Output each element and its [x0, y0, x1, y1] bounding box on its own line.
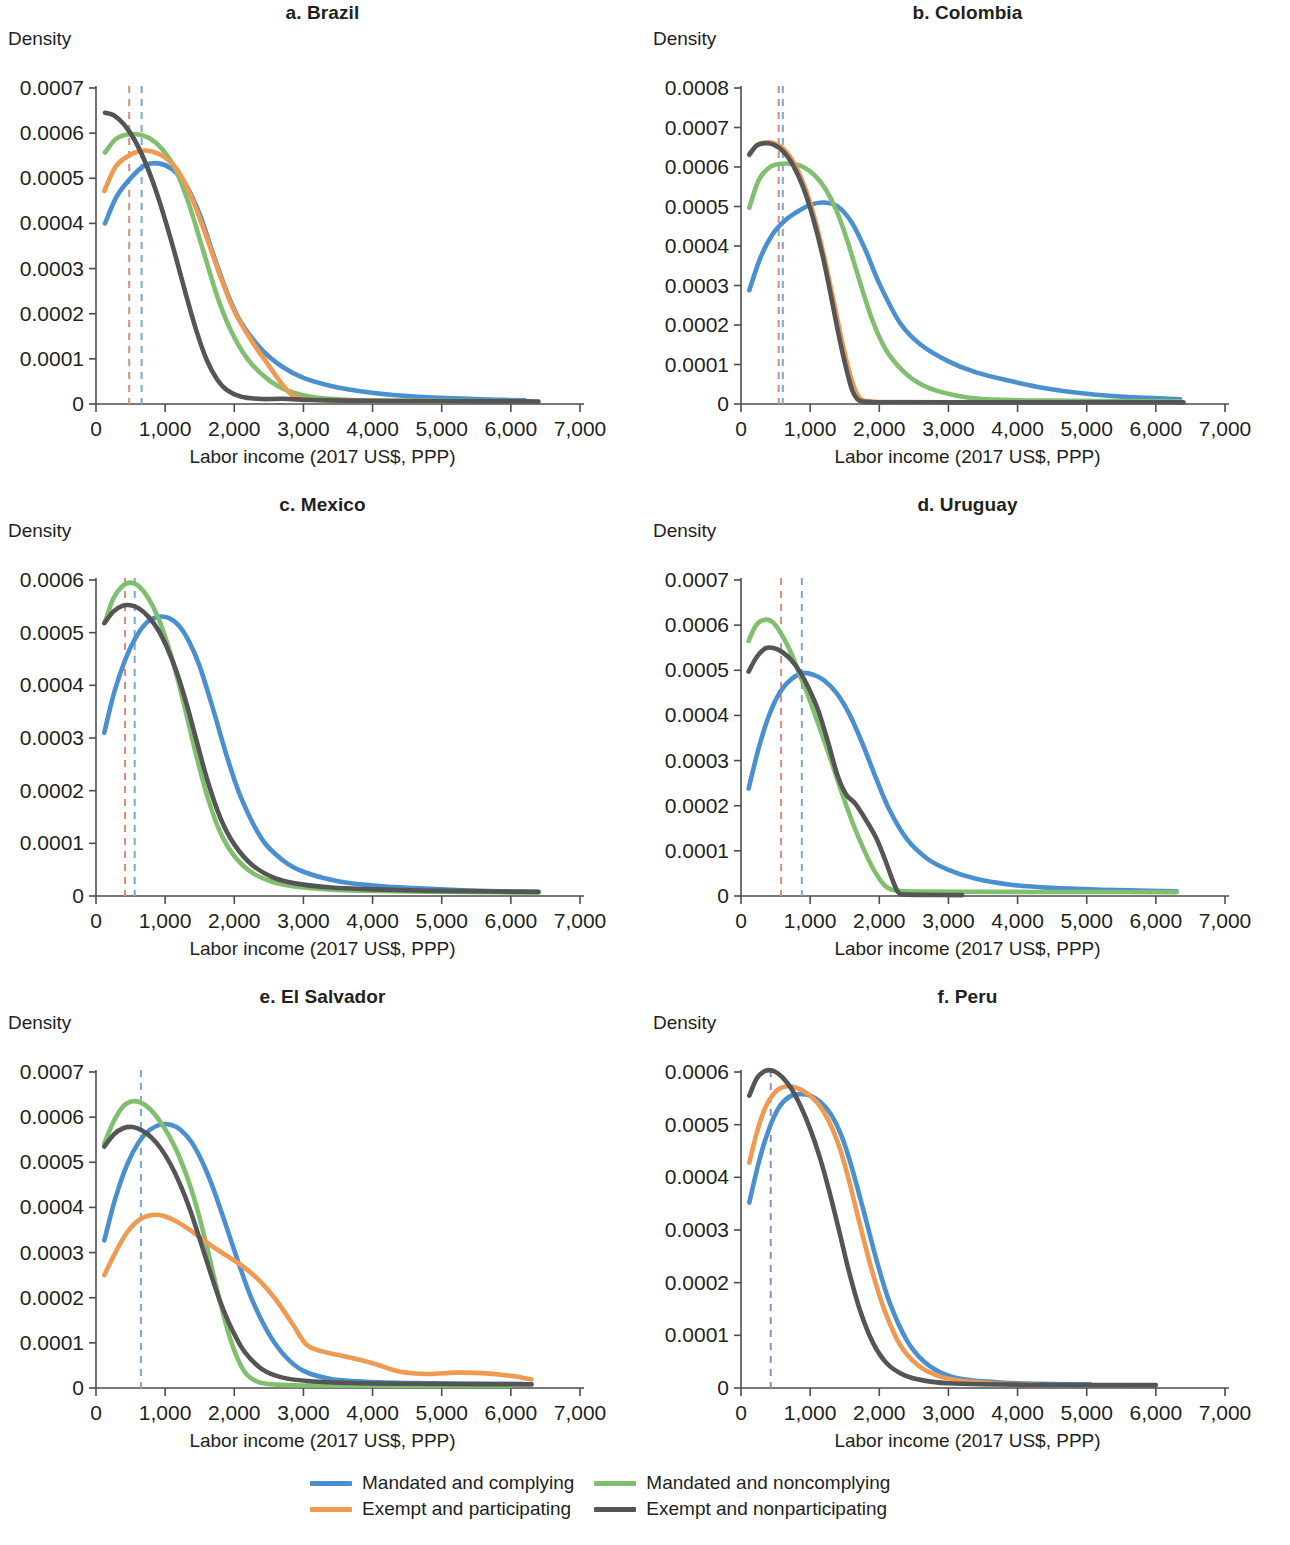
legend-item-exempt_nonparticipating[interactable]: Exempt and nonparticipating: [594, 1498, 890, 1520]
y-tick-label: 0.0005: [20, 166, 84, 189]
y-tick-label: 0.0005: [665, 195, 729, 218]
y-tick-label: 0.0003: [20, 1241, 84, 1264]
x-tick-label: 2,000: [208, 1401, 261, 1424]
y-tick-label: 0: [72, 884, 84, 907]
density-curve: [104, 1127, 531, 1385]
y-tick-label: 0.0002: [665, 1271, 729, 1294]
density-curve: [749, 1070, 1156, 1385]
y-tick-label: 0.0006: [20, 121, 84, 144]
x-tick-label: 1,000: [139, 417, 192, 440]
x-tick-label: 4,000: [991, 1401, 1044, 1424]
y-tick-label: 0.0004: [665, 234, 730, 257]
density-curve: [749, 1094, 1090, 1384]
y-tick-label: 0.0001: [20, 831, 84, 854]
chart-legend: Mandated and complyingMandated and nonco…: [0, 1472, 1290, 1545]
x-tick-label: 6,000: [1130, 417, 1183, 440]
x-tick-label: 7,000: [1199, 1401, 1252, 1424]
y-tick-label: 0.0002: [20, 302, 84, 325]
density-curve: [749, 620, 1177, 893]
legend-label: Exempt and nonparticipating: [646, 1498, 887, 1520]
plot-area: 00.00010.00020.00030.00040.00050.00060.0…: [645, 492, 1290, 982]
y-tick-label: 0.0007: [665, 568, 729, 591]
x-tick-label: 3,000: [277, 1401, 330, 1424]
x-tick-label: 3,000: [277, 417, 330, 440]
y-tick-label: 0.0004: [665, 1165, 730, 1188]
x-tick-label: 1,000: [784, 909, 837, 932]
density-curve: [105, 163, 525, 400]
x-tick-label: 2,000: [853, 417, 906, 440]
panel-brazil: a. BrazilDensityLabor income (2017 US$, …: [0, 0, 645, 490]
panel-el-salvador: e. El SalvadorDensityLabor income (2017 …: [0, 984, 645, 1474]
y-tick-label: 0.0004: [665, 703, 730, 726]
legend-swatch-icon: [310, 1507, 352, 1512]
density-curve: [749, 203, 1180, 400]
y-tick-label: 0.0002: [665, 313, 729, 336]
legend-label: Mandated and complying: [362, 1472, 574, 1494]
x-tick-label: 4,000: [346, 417, 399, 440]
y-tick-label: 0.0001: [20, 347, 84, 370]
y-tick-label: 0.0005: [665, 658, 729, 681]
y-tick-label: 0.0005: [665, 1113, 729, 1136]
y-tick-label: 0.0008: [665, 76, 729, 99]
density-curve: [104, 151, 511, 402]
x-tick-label: 4,000: [346, 1401, 399, 1424]
y-tick-label: 0.0001: [665, 1323, 729, 1346]
x-tick-label: 1,000: [784, 1401, 837, 1424]
x-tick-label: 1,000: [139, 1401, 192, 1424]
density-curve: [749, 1086, 1038, 1384]
x-tick-label: 2,000: [208, 417, 261, 440]
x-tick-label: 6,000: [1130, 1401, 1183, 1424]
y-tick-label: 0.0007: [20, 1060, 84, 1083]
legend-item-mandated_noncomplying[interactable]: Mandated and noncomplying: [594, 1472, 890, 1494]
figure-root: a. BrazilDensityLabor income (2017 US$, …: [0, 0, 1290, 1545]
y-tick-label: 0.0003: [20, 257, 84, 280]
plot-area: 00.00010.00020.00030.00040.00050.000601,…: [645, 984, 1290, 1474]
x-tick-label: 6,000: [485, 909, 538, 932]
density-curve: [749, 163, 1180, 401]
x-tick-label: 5,000: [1060, 417, 1113, 440]
legend-swatch-icon: [310, 1481, 352, 1486]
x-tick-label: 1,000: [139, 909, 192, 932]
x-tick-label: 2,000: [208, 909, 261, 932]
x-tick-label: 3,000: [922, 909, 975, 932]
y-tick-label: 0.0002: [20, 779, 84, 802]
y-tick-label: 0.0002: [20, 1286, 84, 1309]
x-tick-label: 3,000: [922, 1401, 975, 1424]
legend-item-exempt_participating[interactable]: Exempt and participating: [310, 1498, 574, 1520]
y-tick-label: 0: [72, 1376, 84, 1399]
x-tick-label: 0: [735, 909, 747, 932]
y-tick-label: 0.0004: [20, 211, 85, 234]
y-tick-label: 0: [717, 392, 729, 415]
y-tick-label: 0.0001: [20, 1331, 84, 1354]
x-tick-label: 5,000: [415, 417, 468, 440]
y-tick-label: 0.0003: [665, 274, 729, 297]
x-tick-label: 3,000: [277, 909, 330, 932]
density-curve: [749, 142, 1176, 402]
plot-area: 00.00010.00020.00030.00040.00050.00060.0…: [645, 0, 1290, 490]
y-tick-label: 0.0003: [20, 726, 84, 749]
x-tick-label: 7,000: [554, 1401, 607, 1424]
y-tick-label: 0.0003: [665, 749, 729, 772]
x-tick-label: 6,000: [485, 1401, 538, 1424]
panel-mexico: c. MexicoDensityLabor income (2017 US$, …: [0, 492, 645, 982]
y-tick-label: 0.0006: [665, 613, 729, 636]
density-curve: [105, 583, 539, 893]
x-tick-label: 5,000: [1060, 909, 1113, 932]
y-tick-label: 0.0004: [20, 673, 85, 696]
x-tick-label: 3,000: [922, 417, 975, 440]
density-curve: [105, 134, 532, 401]
x-tick-label: 5,000: [415, 1401, 468, 1424]
y-tick-label: 0.0004: [20, 1195, 85, 1218]
x-tick-label: 7,000: [554, 909, 607, 932]
legend-item-mandated_complying[interactable]: Mandated and complying: [310, 1472, 574, 1494]
x-tick-label: 0: [735, 1401, 747, 1424]
y-tick-label: 0.0002: [665, 794, 729, 817]
x-tick-label: 4,000: [991, 909, 1044, 932]
panel-colombia: b. ColombiaDensityLabor income (2017 US$…: [645, 0, 1290, 490]
y-tick-label: 0.0005: [20, 621, 84, 644]
panel-uruguay: d. UruguayDensityLabor income (2017 US$,…: [645, 492, 1290, 982]
y-tick-label: 0.0003: [665, 1218, 729, 1241]
density-curve: [104, 605, 538, 892]
density-curve: [749, 143, 1183, 402]
legend-label: Mandated and noncomplying: [646, 1472, 890, 1494]
